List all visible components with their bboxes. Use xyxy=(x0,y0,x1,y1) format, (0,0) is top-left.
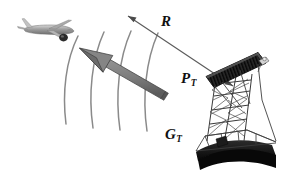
label-transmit-power-symbol: P xyxy=(181,70,190,86)
engine-highlight xyxy=(61,35,64,37)
label-transmit-power: PT xyxy=(181,71,196,88)
label-transmit-gain-subscript: T xyxy=(176,134,182,144)
radar-diagram-canvas xyxy=(0,0,288,173)
feed-horn-aperture xyxy=(263,57,267,61)
label-range: R xyxy=(161,14,171,29)
nose-cone xyxy=(67,29,72,32)
label-transmit-power-subscript: T xyxy=(191,78,197,88)
engine-nacelle xyxy=(59,34,68,42)
radar-range-figure: R PT GT xyxy=(0,0,288,173)
label-transmit-gain-symbol: G xyxy=(165,126,176,142)
label-transmit-gain: GT xyxy=(165,127,182,144)
label-range-symbol: R xyxy=(161,13,171,29)
